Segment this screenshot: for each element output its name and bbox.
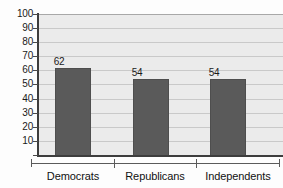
x-axis-line: [37, 155, 283, 157]
category-label-republicans: Republicans: [115, 170, 195, 182]
bar-democrats: [55, 68, 91, 155]
y-tick-mark-70: [33, 56, 38, 57]
y-tick-mark-10: [33, 141, 38, 142]
value-label-independents: 54: [196, 68, 232, 78]
category-axis-end-right: [279, 159, 280, 167]
y-tick-label-60: 60: [0, 65, 33, 75]
y-tick-mark-0: [33, 155, 38, 156]
y-tick-label-50: 50: [0, 79, 33, 89]
bar-independents: [210, 79, 246, 155]
y-tick-mark-40: [33, 99, 38, 100]
y-tick-label-40: 40: [0, 94, 33, 104]
category-label-independents: Independents: [197, 170, 279, 182]
category-separator-tick-2: [196, 159, 197, 168]
y-tick-label-100: 100: [0, 9, 33, 19]
y-tick-label-30: 30: [0, 108, 33, 118]
gridline-80: [38, 42, 283, 43]
plot-top-border: [38, 14, 283, 15]
y-axis-labels: 100 90 80 70 60 50 40 30 20 10: [0, 0, 33, 188]
category-axis-rule: [31, 163, 280, 164]
y-tick-mark-90: [33, 28, 38, 29]
gridline-90: [38, 28, 283, 29]
y-tick-label-20: 20: [0, 122, 33, 132]
bar-chart-figure: 100 90 80 70 60 50 40 30 20 10 62 54 54 …: [0, 0, 283, 188]
bar-republicans: [133, 79, 169, 155]
category-separator-tick-1: [114, 159, 115, 168]
y-tick-mark-50: [33, 84, 38, 85]
category-axis-end-left: [31, 159, 32, 167]
value-label-republicans: 54: [119, 68, 155, 78]
y-tick-mark-100: [33, 14, 38, 15]
y-tick-mark-60: [33, 70, 38, 71]
y-tick-label-80: 80: [0, 37, 33, 47]
value-label-democrats: 62: [41, 57, 77, 67]
plot-area: [38, 14, 283, 155]
y-tick-label-90: 90: [0, 23, 33, 33]
y-tick-mark-30: [33, 113, 38, 114]
y-tick-label-70: 70: [0, 51, 33, 61]
category-label-democrats: Democrats: [33, 170, 113, 182]
y-tick-mark-20: [33, 127, 38, 128]
y-tick-label-10: 10: [0, 136, 33, 146]
y-tick-mark-80: [33, 42, 38, 43]
y-axis-tick-marks: [33, 0, 39, 188]
